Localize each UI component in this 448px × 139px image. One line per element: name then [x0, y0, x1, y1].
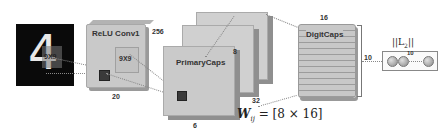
- connector-line: [258, 95, 297, 107]
- digit-caps-label: DigitCaps: [306, 30, 343, 39]
- relu-conv1-label: ReLU Conv1: [92, 29, 140, 38]
- l2-norm-label: ||L2||: [392, 37, 414, 49]
- output-capsule: [423, 56, 434, 67]
- relu-conv1-layer: ReLU Conv1 9X9: [86, 24, 146, 88]
- output-capsule: [398, 56, 409, 67]
- primary-caps-channels-label: 32: [252, 97, 260, 104]
- conv1-width-label: 20: [112, 93, 120, 100]
- connector-line: [409, 61, 422, 62]
- output-capsule: [387, 56, 398, 67]
- primary-caps-label: PrimaryCaps: [176, 58, 225, 67]
- primary-caps-unit: [177, 91, 187, 101]
- digit-caps-width-label: 16: [320, 14, 328, 21]
- output-vector: 10: [382, 51, 438, 71]
- input-image: 4 9X9: [16, 24, 74, 86]
- weight-dimensions: = [8 × 16]: [255, 107, 323, 121]
- primary-caps-layer-front: PrimaryCaps: [163, 46, 235, 116]
- conv1-kernel-label: 9X9: [119, 55, 131, 62]
- primary-caps-dim-label: 8: [233, 48, 237, 55]
- conv1-unit: [99, 70, 110, 81]
- weight-symbol: W: [237, 107, 250, 121]
- conv1-depth-label: 256: [152, 28, 164, 35]
- output-count-label: 10: [407, 50, 414, 56]
- digit-caps-layer: DigitCaps: [298, 24, 356, 98]
- connector-line: [362, 61, 382, 62]
- weight-formula: Wij = [8 × 16]: [237, 107, 323, 123]
- connector-line: [266, 14, 298, 28]
- digit-caps-count-label: 10: [364, 54, 372, 61]
- primary-caps-width-label: 6: [193, 122, 197, 129]
